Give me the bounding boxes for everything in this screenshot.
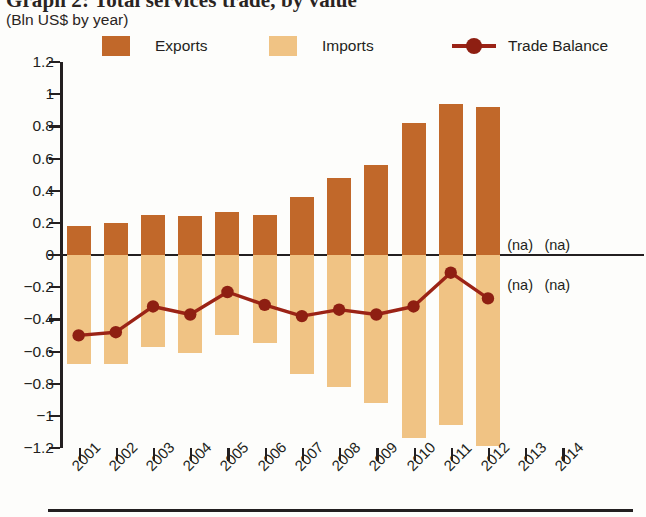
bar-exports [253,215,277,255]
bar-imports [327,255,351,387]
bar-exports [215,212,239,255]
bar-exports [439,104,463,255]
na-annotation: (na) [507,277,533,293]
bar-imports [141,255,165,347]
bar-imports [476,255,500,446]
imports-swatch-icon [269,36,297,56]
bar-imports [364,255,388,403]
legend-item-trade-balance: Trade Balance [452,34,608,58]
legend-label-trade-balance: Trade Balance [508,37,608,55]
bar-imports [178,255,202,353]
bar-imports [402,255,426,438]
exports-swatch-icon [102,36,130,56]
y-axis-tick [49,93,60,95]
bar-imports [215,255,239,335]
y-axis-tick [49,125,60,127]
bar-imports [290,255,314,374]
y-axis-tick [49,158,60,160]
na-annotation: (na) [544,277,570,293]
plot-area [60,62,581,448]
legend-label-exports: Exports [155,37,208,55]
x-axis-labels: 2001200220032004200520062007200820092010… [0,462,646,517]
na-annotation: (na) [544,237,570,253]
y-axis-tick [49,61,60,63]
chart-container: Graph 2: Total services trade, by value … [0,0,646,517]
bar-exports [364,165,388,255]
na-annotation: (na) [507,237,533,253]
chart-legend: Exports Imports Trade Balance [102,34,642,58]
y-axis-tick [49,447,60,449]
bar-exports [290,197,314,255]
y-axis-tick [49,415,60,417]
legend-label-imports: Imports [322,37,374,55]
bar-exports [67,226,91,255]
bar-exports [178,216,202,255]
bar-imports [104,255,128,364]
bar-imports [67,255,91,364]
y-axis-tick [49,383,60,385]
chart-subtitle: (Bln US$ by year) [6,11,128,29]
y-axis-tick [49,222,60,224]
bar-exports [327,178,351,255]
y-axis-tick [49,254,60,256]
y-axis-labels: 1.210.80.60.40.20−0.2−0.4−0.6−0.8−1−1.2 [0,62,54,448]
y-axis-tick [49,286,60,288]
legend-item-imports: Imports [269,34,374,58]
bar-imports [253,255,277,343]
bar-exports [476,107,500,255]
bar-exports [402,123,426,255]
legend-item-exports: Exports [102,34,208,58]
y-axis-tick [49,351,60,353]
y-axis-tick [49,318,60,320]
trade-balance-marker-icon [452,36,496,56]
y-axis-tick [49,190,60,192]
bar-exports [104,223,128,255]
bar-imports [439,255,463,425]
bar-exports [141,215,165,255]
